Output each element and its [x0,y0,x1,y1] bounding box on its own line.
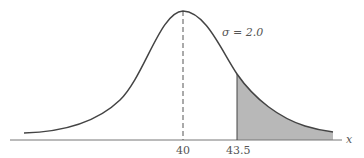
tick-label-mean: 40 [176,145,190,156]
tick-label-cutoff: 43.5 [226,145,251,156]
sigma-label: σ = 2.0 [222,27,263,38]
x-axis-label: x [346,134,352,145]
normal-curve [24,11,333,133]
normal-curve-chart [0,0,364,158]
